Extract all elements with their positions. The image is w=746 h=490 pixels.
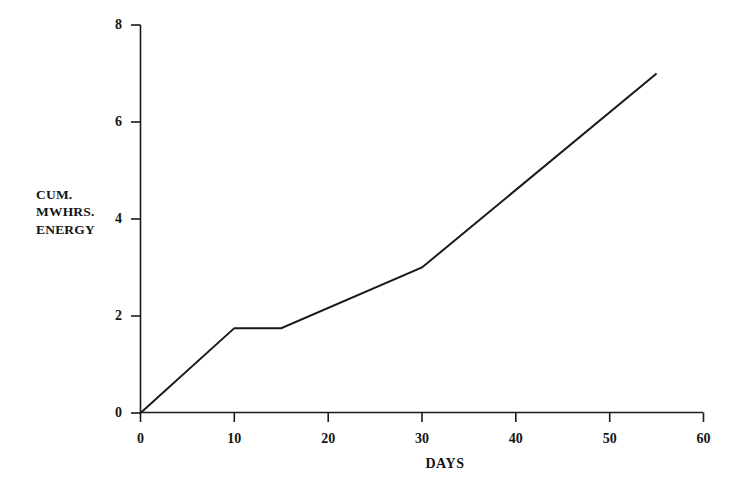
x-tick-label-60: 60 xyxy=(697,432,711,446)
x-axis-title: DAYS xyxy=(425,456,464,472)
y-axis-title-line-1: CUM. xyxy=(36,186,95,203)
x-tick-label-50: 50 xyxy=(603,432,617,446)
y-axis-ticks xyxy=(131,25,141,413)
x-tick-label-20: 20 xyxy=(321,432,335,446)
y-tick-label-6: 6 xyxy=(96,115,122,129)
x-tick-label-0: 0 xyxy=(137,432,144,446)
x-tick-label-30: 30 xyxy=(415,432,429,446)
y-axis-title: CUM. MWHRS. ENERGY xyxy=(36,186,95,238)
y-tick-label-8: 8 xyxy=(96,18,122,32)
x-axis-ticks xyxy=(141,413,704,423)
y-tick-label-2: 2 xyxy=(96,309,122,323)
y-axis-title-line-2: MWHRS. xyxy=(36,203,95,220)
y-axis-title-line-3: ENERGY xyxy=(36,221,95,238)
chart-container: 8 6 4 2 0 0 10 20 30 40 50 60 CUM. MWHRS… xyxy=(0,0,746,490)
data-line-cumulative-energy xyxy=(141,74,657,414)
y-tick-label-0: 0 xyxy=(96,406,122,420)
x-tick-label-40: 40 xyxy=(509,432,523,446)
y-tick-label-4: 4 xyxy=(96,212,122,226)
x-tick-label-10: 10 xyxy=(227,432,241,446)
